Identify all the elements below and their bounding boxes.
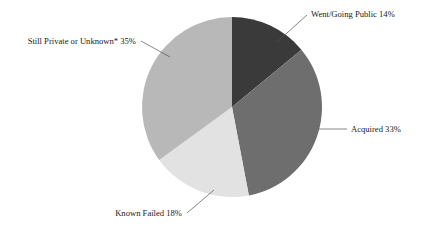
pie-slice-label-went-going-public: Went/Going Public 14% <box>311 9 395 19</box>
pie-slice-label-known-failed: Known Failed 18% <box>115 208 182 218</box>
pie-slice-label-acquired: Acquired 33% <box>351 124 401 134</box>
pie-chart-figure: Went/Going Public 14%Acquired 33%Known F… <box>0 0 422 234</box>
pie-chart-canvas: Went/Going Public 14%Acquired 33%Known F… <box>0 0 422 234</box>
pie-slices-group <box>142 17 322 197</box>
pie-slice-label-still-private-or-unknown: Still Private or Unknown* 35% <box>28 36 136 46</box>
